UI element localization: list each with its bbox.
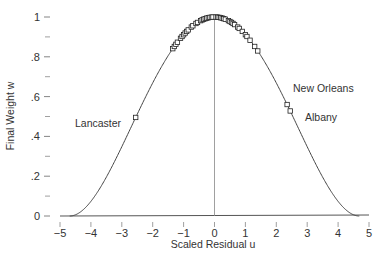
x-tick-label: 5 (366, 227, 372, 239)
y-tick-label: .2 (31, 170, 40, 182)
chart: 0.2.4.6.81 −5−4−3−2−1012345 Scaled Resid… (0, 0, 381, 260)
data-point (285, 102, 289, 106)
x-tick-label: 3 (304, 227, 310, 239)
x-tick-label: −3 (116, 227, 129, 239)
y-axis: 0.2.4.6.81 (31, 11, 50, 222)
y-tick-label: .8 (31, 51, 40, 63)
annotation-new-orleans: New Orleans (293, 82, 354, 94)
data-point (256, 49, 260, 53)
x-axis: −5−4−3−2−1012345 (54, 222, 372, 239)
x-tick-label: −5 (54, 227, 67, 239)
x-tick-label: −2 (146, 227, 159, 239)
data-point (134, 115, 138, 119)
y-tick-label: .4 (31, 130, 40, 142)
annotation-lancaster: Lancaster (75, 117, 122, 129)
x-tick-label: 4 (335, 227, 341, 239)
data-point (248, 38, 252, 42)
data-point (288, 109, 292, 113)
y-tick-label: 1 (34, 11, 40, 23)
x-tick-label: 2 (273, 227, 279, 239)
x-axis-label: Scaled Residual u (171, 238, 256, 250)
y-tick-label: 0 (34, 210, 40, 222)
y-tick-label: .6 (31, 91, 40, 103)
x-tick-label: −4 (85, 227, 98, 239)
data-markers (134, 15, 293, 120)
y-axis-label: Final Weight w (4, 81, 16, 150)
annotation-albany: Albany (305, 111, 338, 123)
data-point (252, 44, 256, 48)
